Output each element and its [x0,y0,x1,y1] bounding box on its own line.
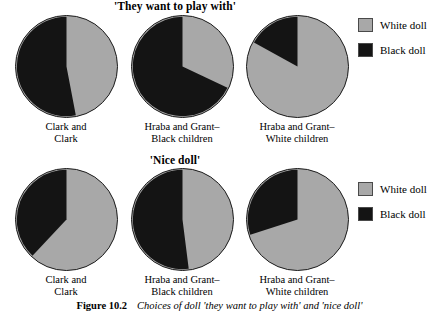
legend-item-black-doll: Black doll [358,207,438,221]
legend-item-black-doll: Black doll [358,43,438,57]
pie-group-label: Hraba and Grant– White children [239,274,355,298]
legend-item-white-doll: White doll [358,18,438,32]
pie-cell-top-hraba-grant-black-children: Hraba and Grant– Black children [124,15,240,145]
pie-chart [131,168,234,271]
pie-cell-bottom-hraba-grant-white-children: Hraba and Grant– White children [239,168,355,298]
legend-label: White doll [380,19,427,32]
panel-they-want-to-play-with: 'They want to play with' Clark and Clark… [0,0,439,150]
black-doll-swatch-icon [358,207,373,221]
pie-chart [15,15,118,118]
white-doll-swatch-icon [358,18,373,32]
caption-text: Choices of doll 'they want to play with'… [137,300,362,311]
legend-bottom: White doll Black doll [358,182,438,232]
black-doll-swatch-icon [358,43,373,57]
pie-group-label: Hraba and Grant– Black children [124,274,240,298]
pie-row-top: Clark and Clark Hraba and Grant– Black c… [6,15,354,150]
pie-group-label: Clark and Clark [8,274,124,298]
pie-cell-bottom-clark-and-clark: Clark and Clark [8,168,124,298]
legend-top: White doll Black doll [358,18,438,68]
pie-cell-top-hraba-grant-white-children: Hraba and Grant– White children [239,15,355,145]
caption-label: Figure 10.2 [77,300,128,311]
panel-nice-doll: 'Nice doll' Clark and Clark Hraba and Gr… [0,152,439,300]
legend-label: Black doll [380,208,426,221]
pie-cell-bottom-hraba-grant-black-children: Hraba and Grant– Black children [124,168,240,298]
pie-chart [15,168,118,271]
pie-group-label: Clark and Clark [8,121,124,145]
figure-caption: Figure 10.2Choices of doll 'they want to… [0,300,439,311]
legend-label: White doll [380,183,427,196]
pie-row-bottom: Clark and Clark Hraba and Grant– Black c… [6,168,354,303]
pie-group-label: Hraba and Grant– Black children [124,121,240,145]
pie-chart [246,168,349,271]
legend-label: Black doll [380,44,426,57]
panel-title: 'They want to play with' [0,0,350,12]
pie-chart [131,15,234,118]
pie-chart [246,15,349,118]
legend-item-white-doll: White doll [358,182,438,196]
white-doll-swatch-icon [358,182,373,196]
pie-cell-top-clark-and-clark: Clark and Clark [8,15,124,145]
pie-group-label: Hraba and Grant– White children [239,121,355,145]
figure-10-2: 'They want to play with' Clark and Clark… [0,0,439,318]
panel-title: 'Nice doll' [0,154,350,166]
